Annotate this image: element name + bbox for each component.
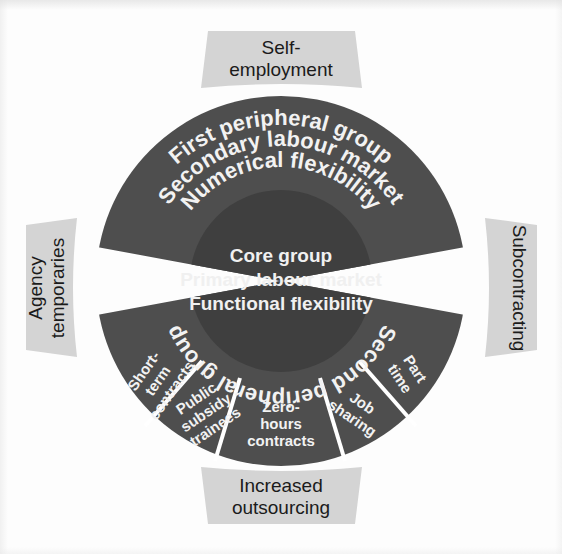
flexible-firm-diagram: First peripheral group Secondary labour …: [0, 0, 562, 554]
increased-outsourcing-line-2: outsourcing: [232, 497, 330, 518]
diagram-canvas: First peripheral group Secondary labour …: [0, 0, 562, 554]
seg3-line-1: Zero-: [262, 398, 300, 415]
core-line-3: Functional flexibility: [189, 293, 373, 314]
core-line-2: Primary labour market: [180, 269, 382, 290]
self-employment-line-2: employment: [229, 59, 333, 80]
outside-label-agency-temporaries[interactable]: Agency temporaries: [25, 218, 77, 357]
seg3-line-2: hours: [260, 415, 302, 432]
outside-label-self-employment[interactable]: Self- employment: [201, 31, 362, 88]
agency-temporaries-line-1: Agency: [25, 256, 46, 320]
outside-label-increased-outsourcing[interactable]: Increased outsourcing: [201, 467, 362, 524]
increased-outsourcing-line-1: Increased: [239, 475, 322, 496]
subcontracting-label: Subcontracting: [509, 225, 530, 352]
agency-temporaries-line-2: temporaries: [47, 238, 68, 338]
outside-label-subcontracting[interactable]: Subcontracting: [485, 218, 537, 357]
core-line-1: Core group: [230, 245, 332, 266]
seg3-line-3: contracts: [247, 432, 315, 449]
self-employment-line-1: Self-: [261, 37, 300, 58]
